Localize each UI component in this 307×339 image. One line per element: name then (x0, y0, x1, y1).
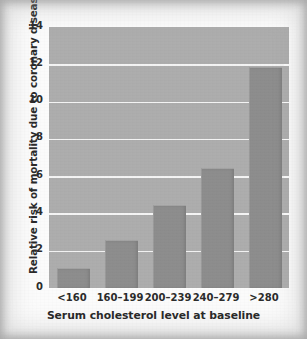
bar (201, 168, 234, 288)
y-axis-tick-label: 12 (21, 57, 43, 68)
y-axis-tick-label: 6 (21, 169, 43, 180)
bar (105, 240, 138, 288)
y-axis-tick-label: 14 (21, 20, 43, 31)
x-axis-tick-label: <160 (48, 292, 96, 303)
y-axis-tick-mark (284, 139, 291, 141)
x-axis-tick-label: 200–239 (144, 292, 192, 303)
y-axis-tick-label: 8 (21, 131, 43, 142)
y-axis-tick-mark (284, 102, 291, 104)
x-axis-tick-label: 160–199 (96, 292, 144, 303)
bar (57, 268, 90, 288)
y-axis-tick-label: 2 (21, 243, 43, 254)
y-axis-tick-label: 0 (21, 281, 43, 292)
y-axis-tick-label: 4 (21, 206, 43, 217)
y-axis-tick-mark (284, 251, 291, 253)
x-axis-tick-label: >280 (240, 292, 288, 303)
y-axis-tick-label: 10 (21, 94, 43, 105)
gridline (49, 64, 289, 66)
x-axis-title: Serum cholesterol level at baseline (0, 309, 307, 322)
plot-area (48, 26, 290, 289)
bar (153, 205, 186, 288)
chart-figure: Relative risk of mortality due to corona… (0, 0, 307, 339)
y-axis-tick-mark (284, 213, 291, 215)
y-axis-tick-mark (284, 176, 291, 178)
x-axis-tick-label: 240–279 (192, 292, 240, 303)
y-axis-tick-mark (284, 64, 291, 66)
bar (249, 67, 282, 288)
